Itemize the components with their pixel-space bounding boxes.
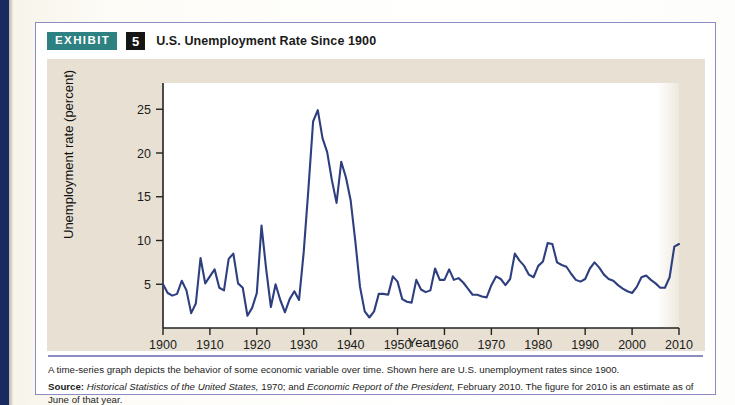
x-tick-label: 1960: [431, 338, 459, 351]
x-tick-label: 1930: [290, 338, 318, 351]
exhibit-header: EXHIBIT 5 U.S. Unemployment Rate Since 1…: [36, 23, 715, 59]
x-tick-label: 1980: [524, 338, 552, 351]
y-axis-title: Unemployment rate (percent): [61, 70, 76, 239]
exhibit-caption: A time-series graph depicts the behavior…: [48, 363, 703, 376]
page-background: EXHIBIT 5 U.S. Unemployment Rate Since 1…: [13, 0, 735, 405]
x-tick-label: 1900: [149, 338, 177, 351]
exhibit-container: EXHIBIT 5 U.S. Unemployment Rate Since 1…: [35, 22, 716, 395]
y-tick-label: 10: [137, 234, 151, 248]
unemployment-rate-line: [163, 110, 679, 317]
chart-card: 510152025 190019101920193019401950196019…: [47, 59, 705, 351]
exhibit-title: U.S. Unemployment Rate Since 1900: [156, 34, 376, 48]
footer-divider: [48, 355, 703, 357]
exhibit-footer: A time-series graph depicts the behavior…: [36, 355, 715, 405]
exhibit-badge: EXHIBIT: [47, 32, 117, 50]
y-tick-label: 5: [144, 278, 151, 292]
x-tick-label: 1920: [243, 338, 271, 351]
source-title-2: Economic Report of the President,: [307, 381, 455, 392]
x-axis-title: Year: [408, 335, 435, 350]
source-title-1: Historical Statistics of the United Stat…: [87, 381, 259, 392]
y-tick-label: 20: [137, 147, 151, 161]
x-tick-label: 1990: [571, 338, 599, 351]
exhibit-source: Source: Historical Statistics of the Uni…: [48, 380, 703, 405]
exhibit-number-badge: 5: [126, 32, 145, 50]
x-tick-label: 2000: [618, 338, 646, 351]
x-tick-label: 1910: [196, 338, 224, 351]
book-spine-strip: [0, 0, 9, 405]
x-tick-label: 2010: [665, 338, 693, 351]
source-middle-text: 1970; and: [259, 381, 307, 392]
x-tick-label: 1970: [477, 338, 505, 351]
y-tick-label: 25: [137, 103, 151, 117]
y-axis: 510152025: [137, 83, 163, 328]
unemployment-line-chart: 510152025 190019101920193019401950196019…: [47, 59, 705, 351]
source-label: Source:: [48, 381, 84, 392]
y-tick-label: 15: [137, 190, 151, 204]
x-tick-label: 1940: [337, 338, 365, 351]
